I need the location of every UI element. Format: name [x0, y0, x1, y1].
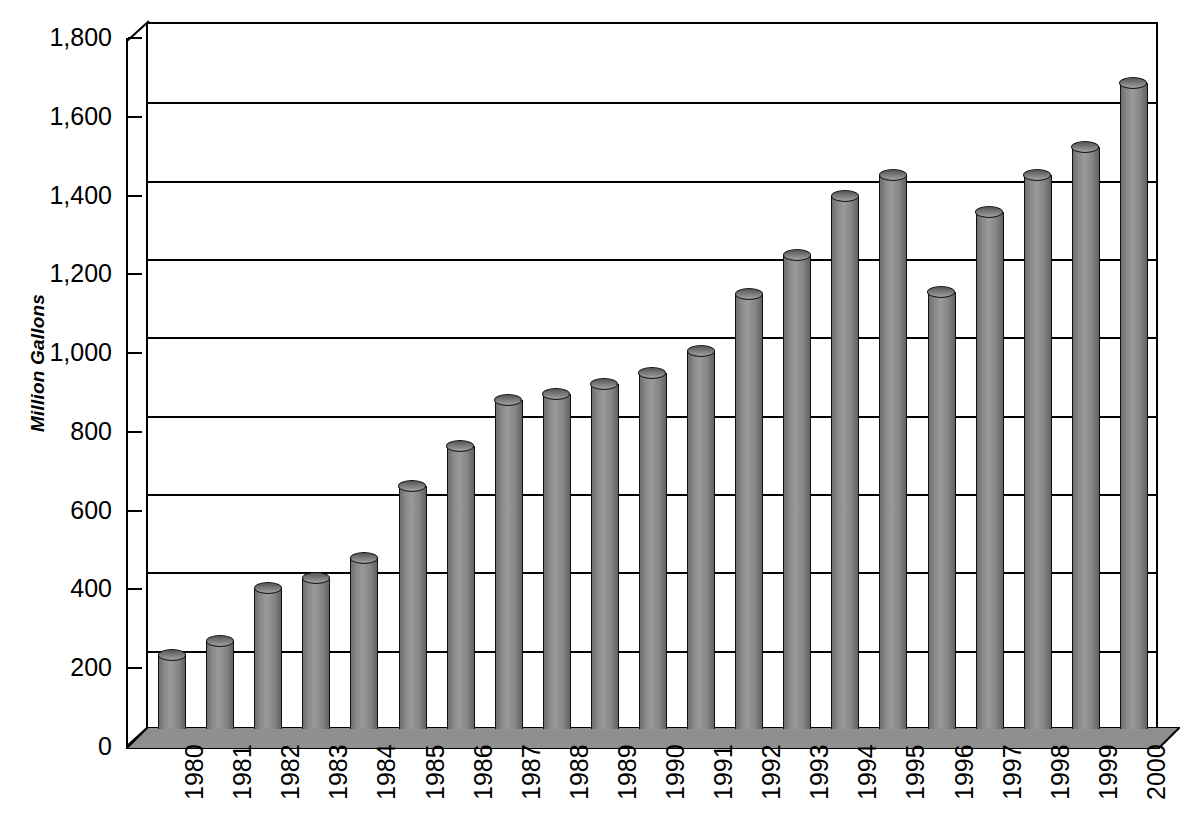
x-axis-tick-label: 1980 [181, 752, 207, 800]
x-axis-tick-label: 1985 [422, 752, 448, 800]
bar-slot [340, 24, 388, 729]
bar [687, 351, 715, 729]
x-axis-tick-label: 1990 [662, 752, 688, 800]
bar-slot [292, 24, 340, 729]
bar-top-ellipse [831, 190, 859, 202]
y-axis-tick-mark [128, 352, 142, 354]
y-axis-tick-label: 1,600 [16, 104, 112, 129]
bar-top-ellipse [1071, 141, 1099, 153]
x-axis-tick-label: 1982 [277, 752, 303, 800]
bar-top-ellipse [398, 480, 426, 492]
bar-top-ellipse [350, 552, 378, 564]
bar-top-ellipse [879, 169, 907, 181]
y-axis-tick-label: 800 [16, 419, 112, 444]
bar-slot [581, 24, 629, 729]
bar-slot [388, 24, 436, 729]
bar-top-ellipse [735, 288, 763, 300]
bar [543, 394, 571, 729]
bar-top-ellipse [494, 394, 522, 406]
bar [1120, 83, 1148, 729]
y-axis-tick-label: 1,400 [16, 183, 112, 208]
y-axis-tick-labels: 1,8001,6001,4001,2001,0008006004002000 [16, 0, 112, 822]
bar-top-ellipse [1119, 77, 1147, 89]
bar-slot [629, 24, 677, 729]
x-axis-tick-labels: 1980198119821983198419851986198719881989… [148, 752, 1158, 822]
bar [1024, 175, 1052, 729]
y-axis-tick-label: 400 [16, 576, 112, 601]
y-axis-tick-label: 1,800 [16, 25, 112, 50]
x-axis-tick-label: 1988 [566, 752, 592, 800]
y-axis-line [126, 38, 128, 747]
bar [879, 175, 907, 729]
x-axis-tick-label: 1987 [518, 752, 544, 800]
bar [591, 384, 619, 729]
bar [639, 373, 667, 729]
bar-slot [1110, 24, 1158, 729]
y-axis-tick-mark [128, 273, 142, 275]
bar [447, 446, 475, 729]
bar-top-ellipse [975, 206, 1003, 218]
y-axis-tick-mark [128, 588, 142, 590]
bar-top-ellipse [254, 582, 282, 594]
bar-top-ellipse [1023, 169, 1051, 181]
x-axis-tick-label: 2000 [1143, 752, 1169, 800]
bar [254, 588, 282, 729]
y-axis-tick-label: 600 [16, 498, 112, 523]
x-axis-tick-label: 1999 [1095, 752, 1121, 800]
bar-top-ellipse [783, 249, 811, 261]
y-axis-tick-mark [128, 510, 142, 512]
bar-top-ellipse [302, 572, 330, 584]
bar-top-ellipse [927, 286, 955, 298]
x-axis-tick-label: 1983 [325, 752, 351, 800]
y-axis-tick-mark [128, 195, 142, 197]
bar-slot [533, 24, 581, 729]
x-axis-tick-label: 1994 [854, 752, 880, 800]
bar [158, 655, 186, 729]
bar-top-ellipse [687, 345, 715, 357]
bar-slot [148, 24, 196, 729]
x-axis-tick-label: 1996 [951, 752, 977, 800]
bar [976, 212, 1004, 729]
bar-slot [869, 24, 917, 729]
bar-slot [437, 24, 485, 729]
bar-slot [485, 24, 533, 729]
bar-top-ellipse [590, 378, 618, 390]
y-axis-tick-label: 0 [16, 734, 112, 759]
y-axis-tick-label: 1,000 [16, 340, 112, 365]
x-axis-tick-label: 1984 [373, 752, 399, 800]
bar-top-ellipse [638, 367, 666, 379]
bar [399, 486, 427, 729]
y-axis-tick-label: 200 [16, 655, 112, 680]
bar [831, 196, 859, 729]
bar-slot [244, 24, 292, 729]
bars-layer [148, 22, 1158, 729]
bar-slot [821, 24, 869, 729]
bar-slot [1062, 24, 1110, 729]
x-axis-tick-label: 1981 [229, 752, 255, 800]
y-axis-tick-mark [128, 667, 142, 669]
x-axis-tick-label: 1995 [902, 752, 928, 800]
bar-slot [918, 24, 966, 729]
bar [928, 292, 956, 729]
x-axis-tick-label: 1992 [758, 752, 784, 800]
y-axis-tick-mark [128, 116, 142, 118]
x-axis-tick-label: 1997 [999, 752, 1025, 800]
bar-top-ellipse [542, 388, 570, 400]
y-axis-tick-label: 1,200 [16, 261, 112, 286]
bar-top-ellipse [158, 649, 186, 661]
bar [783, 255, 811, 729]
bar-slot [773, 24, 821, 729]
bar [495, 400, 523, 729]
bar-slot [196, 24, 244, 729]
bar [735, 294, 763, 729]
y-axis-tick-mark [128, 431, 142, 433]
bar [1072, 147, 1100, 729]
bar [206, 641, 234, 729]
bar-chart: Million Gallons 1,8001,6001,4001,2001,00… [0, 0, 1182, 822]
bar-top-ellipse [206, 635, 234, 647]
bar [350, 558, 378, 729]
bar-slot [725, 24, 773, 729]
bar-slot [677, 24, 725, 729]
bar [302, 578, 330, 729]
x-axis-tick-label: 1989 [614, 752, 640, 800]
